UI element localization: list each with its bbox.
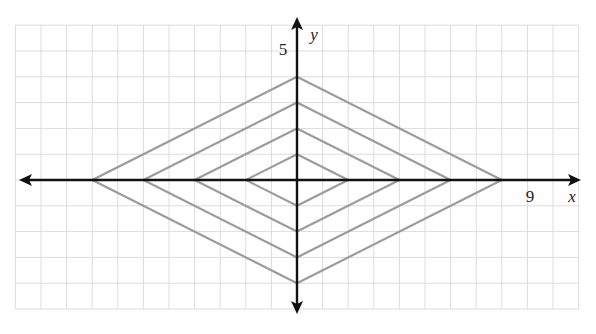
y-axis-label: y	[308, 25, 318, 44]
axes	[19, 17, 581, 314]
coordinate-plane: 5 y 9 x	[0, 0, 596, 334]
y-tick-label: 5	[279, 40, 288, 59]
x-axis-label: x	[567, 187, 576, 206]
x-tick-label: 9	[526, 187, 535, 206]
